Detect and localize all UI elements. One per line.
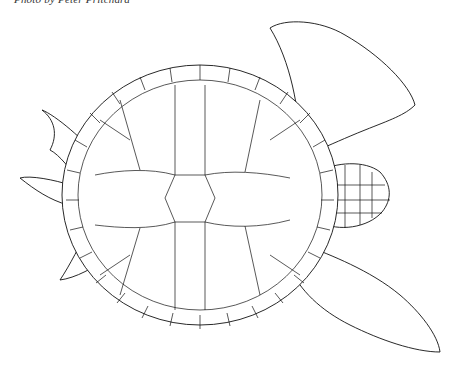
turtle-illustration bbox=[0, 0, 461, 370]
carapace bbox=[62, 65, 338, 325]
